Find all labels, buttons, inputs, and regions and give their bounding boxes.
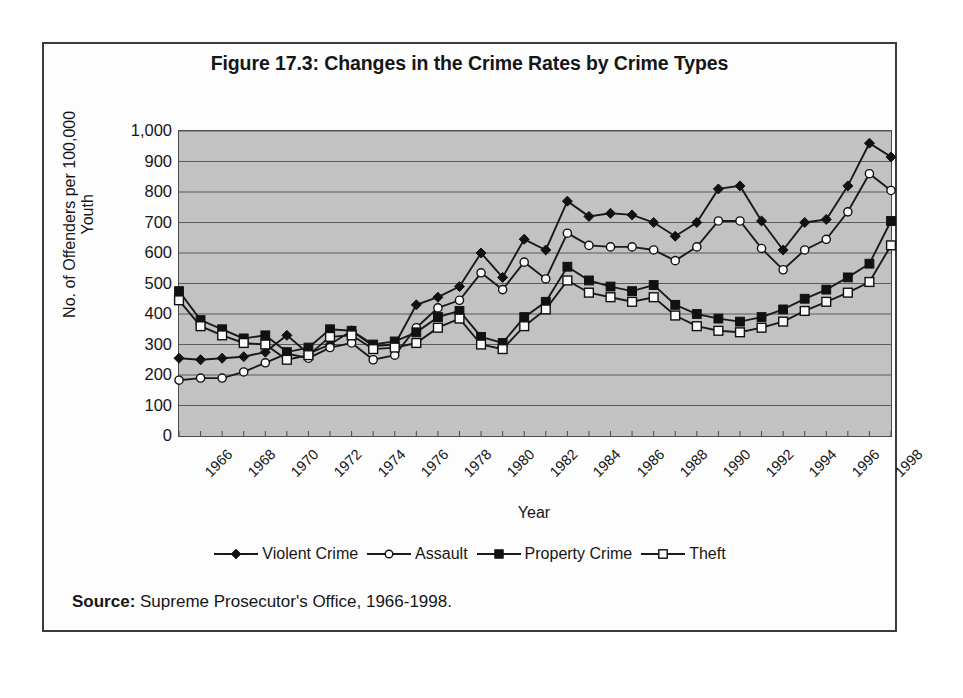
x-tick-label: 1976 (417, 446, 451, 480)
data-point-marker (887, 217, 896, 226)
source-text: Supreme Prosecutor's Office, 1966-1998. (135, 592, 452, 611)
data-point-marker (822, 285, 831, 294)
data-point-marker (326, 343, 334, 351)
data-point-marker (671, 311, 680, 320)
data-point-marker (434, 313, 443, 322)
y-tick-label: 300 (102, 334, 172, 353)
y-tick-label: 200 (102, 365, 172, 384)
data-point-marker (822, 235, 830, 243)
data-point-marker (175, 296, 184, 305)
x-tick-label: 1992 (762, 446, 796, 480)
legend-label: Property Crime (525, 545, 633, 563)
y-tick-label: 0 (102, 426, 172, 445)
data-point-marker (757, 313, 766, 322)
data-point-marker (865, 278, 874, 287)
data-point-marker (412, 339, 421, 348)
data-point-marker (520, 258, 528, 266)
data-point-marker (434, 304, 442, 312)
data-point-marker (455, 314, 464, 323)
data-point-marker (585, 288, 594, 297)
data-point-marker (175, 376, 183, 384)
data-point-marker (714, 326, 723, 335)
data-point-marker (520, 322, 529, 331)
data-point-marker (714, 314, 723, 323)
data-point-marker (801, 246, 809, 254)
data-point-marker (498, 345, 507, 354)
x-tick-label: 1990 (719, 446, 753, 480)
data-point-marker (779, 266, 787, 274)
data-point-marker (218, 331, 227, 340)
x-tick-label: 1974 (374, 446, 408, 480)
x-tick-label: 1980 (503, 446, 537, 480)
legend-marker-open-circle-icon (366, 546, 412, 562)
series-svg (179, 131, 891, 436)
data-point-marker (261, 359, 269, 367)
x-axis-label: Year (178, 504, 890, 522)
data-point-marker (196, 355, 206, 365)
data-point-marker (843, 273, 852, 282)
source-label: Source: (72, 592, 135, 611)
data-point-marker (499, 286, 507, 294)
legend-item: Theft (640, 545, 725, 563)
data-point-marker (455, 296, 463, 304)
data-point-marker (390, 343, 399, 352)
y-tick-label: 800 (102, 182, 172, 201)
plot-region (178, 130, 892, 437)
data-point-marker (477, 269, 485, 277)
legend-item: Property Crime (476, 545, 633, 563)
data-point-marker (627, 210, 637, 220)
data-point-marker (174, 353, 184, 363)
data-point-marker (649, 281, 658, 290)
data-point-marker (433, 292, 443, 302)
x-tick-label: 1994 (806, 446, 840, 480)
data-point-marker (865, 259, 874, 268)
data-point-marker (240, 368, 248, 376)
data-point-marker (326, 332, 335, 341)
data-point-marker (261, 331, 270, 340)
data-point-marker (196, 322, 205, 331)
data-point-marker (477, 340, 486, 349)
data-point-marker (585, 276, 594, 285)
data-point-marker (239, 352, 249, 362)
data-point-marker (261, 340, 270, 349)
data-point-marker (844, 208, 852, 216)
data-point-marker (196, 374, 204, 382)
data-point-marker (692, 218, 702, 228)
data-point-marker (693, 243, 701, 251)
data-point-marker (757, 244, 765, 252)
data-point-marker (282, 355, 291, 364)
data-point-marker (541, 305, 550, 314)
y-axis-label: No. of Offenders per 100,000 Youth (61, 99, 98, 329)
data-point-marker (800, 294, 809, 303)
x-tick-label: 1998 (892, 446, 926, 480)
data-point-marker (542, 275, 550, 283)
data-point-marker (606, 243, 614, 251)
series-line (179, 245, 891, 359)
x-tick-label: 1966 (201, 446, 235, 480)
data-point-marker (865, 170, 873, 178)
y-tick-label: 100 (102, 395, 172, 414)
data-point-marker (628, 287, 637, 296)
data-point-marker (520, 313, 529, 322)
data-point-marker (757, 323, 766, 332)
data-point-marker (585, 241, 593, 249)
legend-marker-filled-diamond-icon (213, 546, 259, 562)
x-tick-label: 1996 (849, 446, 883, 480)
data-point-marker (736, 317, 745, 326)
figure-title: Figure 17.3: Changes in the Crime Rates … (42, 52, 897, 75)
x-axis-ticks: 1966196819701972197419761978198019821984… (178, 440, 890, 510)
data-point-marker (736, 328, 745, 337)
legend-label: Violent Crime (262, 545, 358, 563)
data-point-marker (606, 293, 615, 302)
data-point-marker (239, 339, 248, 348)
data-point-marker (217, 353, 227, 363)
data-point-marker (779, 305, 788, 314)
data-point-marker (628, 297, 637, 306)
data-point-marker (606, 208, 616, 218)
x-tick-label: 1982 (547, 446, 581, 480)
data-point-marker (304, 351, 313, 360)
legend-label: Theft (689, 545, 725, 563)
chart-legend: Violent CrimeAssaultProperty CrimeTheft (42, 545, 897, 563)
data-point-marker (671, 300, 680, 309)
data-point-marker (369, 345, 378, 354)
